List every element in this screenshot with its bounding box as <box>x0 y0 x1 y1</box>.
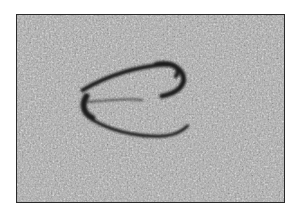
micrograph-frame <box>16 14 285 203</box>
micrograph-image <box>17 15 284 202</box>
